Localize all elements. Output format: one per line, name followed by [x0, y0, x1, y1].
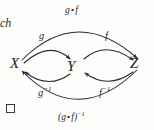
inverse-exponent-composite: −1 — [77, 110, 85, 117]
arrow-label-g-compose-f: g∘f — [65, 6, 78, 16]
inverse-exponent-g: −1 — [43, 85, 51, 93]
composite-right-operand: f — [75, 5, 78, 15]
node-label-z: Z — [130, 56, 138, 71]
arrow-label-g-inverse: g−1 — [38, 86, 52, 98]
inverse-exponent-f: −1 — [102, 85, 110, 93]
qed-box-icon — [6, 104, 15, 113]
arrow-label-f-inverse: f−1 — [99, 86, 110, 98]
arrow-f — [84, 50, 133, 60]
commutative-diagram: X Y Z g f g∘f g−1 f−1 (g∘f)−1 ch — [0, 0, 154, 130]
arrow-label-g-compose-f-inverse: (g∘f)−1 — [58, 111, 85, 123]
page-text-fragment: ch — [0, 17, 11, 29]
node-label-x: X — [10, 56, 19, 71]
node-label-y: Y — [67, 59, 75, 74]
arrow-label-f: f — [105, 31, 108, 42]
arrow-label-g: g — [39, 31, 44, 42]
